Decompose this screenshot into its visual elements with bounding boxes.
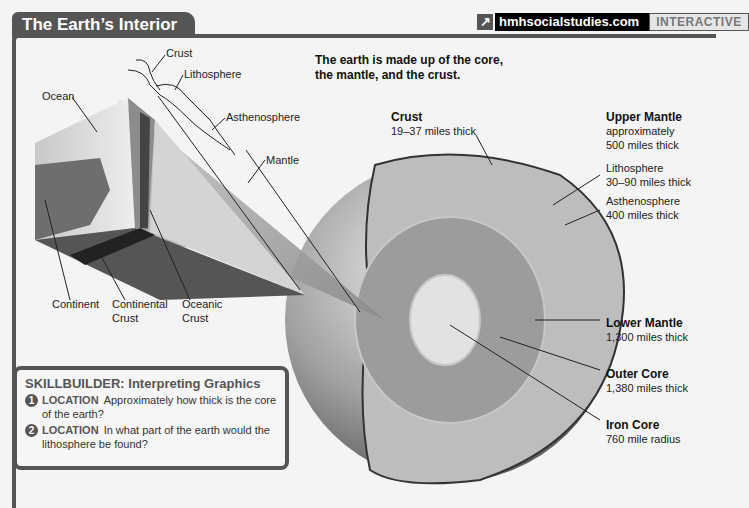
globe-label-asthenosphere: Asthenosphere 400 miles thick xyxy=(606,194,680,222)
globe-label-iron-core: Iron Core 760 mile radius xyxy=(606,418,681,446)
globe-label-iron-core-desc: 760 mile radius xyxy=(606,433,681,445)
globe-label-crust: Crust 19–37 miles thick xyxy=(391,110,476,138)
globe-label-outer-core: Outer Core 1,380 miles thick xyxy=(606,367,688,395)
globe-label-lithosphere-title: Lithosphere xyxy=(606,161,691,175)
number-1-icon: 1 xyxy=(25,394,38,407)
label-continental-crust: Continental Crust xyxy=(112,297,168,325)
question-2: 2 LOCATIONIn what part of the earth woul… xyxy=(25,423,277,451)
globe-label-upper-mantle: Upper Mantle approximately 500 miles thi… xyxy=(606,110,682,152)
skillbuilder-box: SKILLBUILDER: Interpreting Graphics 1 LO… xyxy=(13,366,289,470)
globe-label-iron-core-title: Iron Core xyxy=(606,418,681,432)
globe-label-upper-mantle-desc1: approximately xyxy=(606,124,682,138)
label-oceanic-crust-line1: Oceanic xyxy=(182,297,222,311)
globe-label-lower-mantle: Lower Mantle 1,300 miles thick xyxy=(606,316,688,344)
label-asthenosphere: Asthenosphere xyxy=(226,110,300,124)
label-crust: Crust xyxy=(166,46,192,60)
globe-label-crust-title: Crust xyxy=(391,110,476,124)
globe-label-outer-core-desc: 1,380 miles thick xyxy=(606,382,688,394)
globe-label-lower-mantle-desc: 1,300 miles thick xyxy=(606,331,688,343)
question-1: 1 LOCATIONApproximately how thick is the… xyxy=(25,393,277,421)
question-2-line2: lithosphere be found? xyxy=(42,437,270,451)
skillbuilder-title: SKILLBUILDER: Interpreting Graphics xyxy=(25,376,277,391)
question-1-line2: of the earth? xyxy=(42,407,276,421)
crust-block xyxy=(35,98,305,300)
globe-label-upper-mantle-desc2: 500 miles thick xyxy=(606,138,682,152)
intro-line-1: The earth is made up of the core, xyxy=(315,53,503,68)
question-1-tag: LOCATION xyxy=(42,394,99,406)
globe-label-asthenosphere-title: Asthenosphere xyxy=(606,194,680,208)
globe-label-outer-core-title: Outer Core xyxy=(606,367,688,381)
number-2-icon: 2 xyxy=(25,424,38,437)
question-2-tag: LOCATION xyxy=(42,424,99,436)
globe-label-crust-desc: 19–37 miles thick xyxy=(391,125,476,137)
globe-label-lithosphere: Lithosphere 30–90 miles thick xyxy=(606,161,691,189)
label-lithosphere: Lithosphere xyxy=(184,67,242,81)
globe-label-lithosphere-desc: 30–90 miles thick xyxy=(606,175,691,189)
label-continental-crust-line2: Crust xyxy=(112,311,168,325)
globe-label-asthenosphere-desc: 400 miles thick xyxy=(606,208,680,222)
label-oceanic-crust-line2: Crust xyxy=(182,311,222,325)
question-1-line1: Approximately how thick is the core xyxy=(104,394,276,406)
label-continental-crust-line1: Continental xyxy=(112,297,168,311)
label-ocean: Ocean xyxy=(42,89,74,103)
intro-line-2: the mantle, and the crust. xyxy=(315,68,503,83)
question-2-line1: In what part of the earth would the xyxy=(104,424,270,436)
globe-label-upper-mantle-title: Upper Mantle xyxy=(606,110,682,124)
globe-label-lower-mantle-title: Lower Mantle xyxy=(606,316,688,330)
label-continent: Continent xyxy=(52,297,99,311)
intro-text: The earth is made up of the core, the ma… xyxy=(315,53,503,83)
globe xyxy=(285,155,624,488)
label-mantle: Mantle xyxy=(266,153,299,167)
label-oceanic-crust: Oceanic Crust xyxy=(182,297,222,325)
